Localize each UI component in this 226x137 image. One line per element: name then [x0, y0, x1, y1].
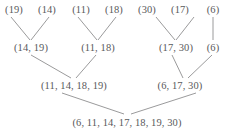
tree-edge [98, 17, 116, 40]
tree-node-leaf-18: (18) [105, 4, 123, 15]
tree-edge [78, 17, 97, 40]
merge-tree-diagram: (19)(14)(11)(18)(30)(17)(6)(14, 19)(11, … [0, 0, 226, 137]
tree-edge [172, 55, 183, 78]
tree-node-root-all: (6, 11, 14, 17, 18, 19, 30) [72, 117, 181, 128]
tree-node-pair-6: (6) [207, 42, 220, 53]
tree-edge [62, 93, 124, 114]
tree-node-leaf-19: (19) [5, 4, 23, 15]
tree-edge [188, 55, 212, 78]
tree-node-pair-11-18: (11, 18) [81, 42, 115, 53]
tree-edge [156, 17, 175, 40]
tree-edge [131, 93, 196, 114]
tree-edge [76, 55, 96, 78]
tree-edge [176, 17, 194, 40]
tree-node-pair-14-19: (14, 19) [14, 42, 48, 53]
tree-edge [31, 17, 49, 40]
tree-node-leaf-17: (17) [171, 4, 189, 15]
tree-node-leaf-14: (14) [38, 4, 56, 15]
tree-node-leaf-30: (30) [138, 4, 156, 15]
tree-node-merge-right: (6, 17, 30) [158, 80, 203, 91]
tree-node-leaf-6: (6) [207, 4, 220, 15]
tree-edge [11, 17, 30, 40]
tree-node-pair-17-30: (17, 30) [159, 42, 193, 53]
tree-node-leaf-11: (11) [72, 4, 90, 15]
tree-node-merge-left: (11, 14, 18, 19) [41, 80, 107, 91]
tree-edge [31, 55, 71, 78]
